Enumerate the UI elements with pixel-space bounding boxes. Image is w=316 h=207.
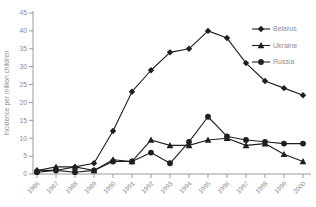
circle-marker bbox=[110, 159, 116, 165]
x-tick-label: 1993 bbox=[159, 179, 174, 194]
circle-marker bbox=[53, 168, 59, 174]
diamond-marker bbox=[300, 92, 306, 98]
y-tick-label: 35 bbox=[19, 45, 27, 52]
y-tick-label: 30 bbox=[19, 63, 27, 70]
x-tick-label: 1990 bbox=[102, 179, 117, 194]
y-axis-title: Incidence per million children bbox=[3, 50, 11, 135]
circle-marker bbox=[129, 159, 135, 165]
triangle-marker bbox=[300, 158, 307, 164]
circle-marker bbox=[258, 59, 264, 65]
circle-marker bbox=[167, 160, 173, 166]
y-tick-label: 40 bbox=[19, 27, 27, 34]
x-tick-label: 1995 bbox=[197, 179, 212, 194]
circle-marker bbox=[34, 169, 40, 175]
circle-marker bbox=[281, 141, 287, 147]
triangle-marker bbox=[281, 151, 288, 157]
circle-marker bbox=[243, 137, 249, 143]
legend-item-russia: Russia bbox=[252, 58, 295, 65]
legend: BelarusUkraineRussia bbox=[252, 25, 297, 65]
legend-item-belarus: Belarus bbox=[252, 25, 297, 32]
chart-container: 0510152025303540451986198719881989199019… bbox=[0, 0, 316, 207]
circle-marker bbox=[205, 114, 211, 120]
x-tick-label: 1986 bbox=[26, 179, 41, 194]
y-tick-label: 25 bbox=[19, 81, 27, 88]
circle-marker bbox=[72, 169, 78, 175]
circle-marker bbox=[300, 141, 306, 147]
x-tick-label: 2000 bbox=[292, 179, 307, 194]
circle-marker bbox=[186, 139, 192, 145]
x-tick-label: 1992 bbox=[140, 179, 155, 194]
x-tick-label: 1997 bbox=[235, 179, 250, 194]
x-tick-label: 1988 bbox=[64, 179, 79, 194]
x-tick-label: 1994 bbox=[178, 179, 193, 194]
legend-label: Ukraine bbox=[273, 42, 297, 49]
x-tick-label: 1991 bbox=[121, 179, 136, 194]
x-tick-label: 1996 bbox=[216, 179, 231, 194]
y-tick-label: 10 bbox=[19, 135, 27, 142]
y-tick-label: 45 bbox=[19, 9, 27, 16]
legend-label: Belarus bbox=[273, 25, 297, 32]
diamond-marker bbox=[91, 160, 97, 166]
y-tick-label: 15 bbox=[19, 117, 27, 124]
axes bbox=[33, 11, 311, 174]
legend-item-ukraine: Ukraine bbox=[252, 42, 297, 49]
x-tick-label: 1999 bbox=[273, 179, 288, 194]
circle-marker bbox=[262, 139, 268, 145]
diamond-marker bbox=[281, 85, 287, 91]
x-tick-label: 1987 bbox=[45, 179, 60, 194]
diamond-marker bbox=[110, 128, 116, 134]
line-chart: 0510152025303540451986198719881989199019… bbox=[0, 0, 316, 207]
y-tick-label: 5 bbox=[23, 152, 27, 159]
diamond-marker bbox=[258, 26, 264, 32]
circle-marker bbox=[148, 150, 154, 156]
y-tick-label: 0 bbox=[23, 170, 27, 177]
y-tick-label: 20 bbox=[19, 99, 27, 106]
circle-marker bbox=[224, 134, 230, 140]
y-axis: 051015202530354045 bbox=[19, 9, 33, 177]
circle-marker bbox=[91, 168, 97, 174]
triangle-marker bbox=[148, 137, 155, 143]
x-tick-label: 1989 bbox=[83, 179, 98, 194]
legend-label: Russia bbox=[273, 58, 295, 65]
series-belarus bbox=[34, 28, 306, 174]
x-tick-label: 1998 bbox=[254, 179, 269, 194]
x-axis: 1986198719881989199019911992199319941995… bbox=[26, 174, 307, 195]
